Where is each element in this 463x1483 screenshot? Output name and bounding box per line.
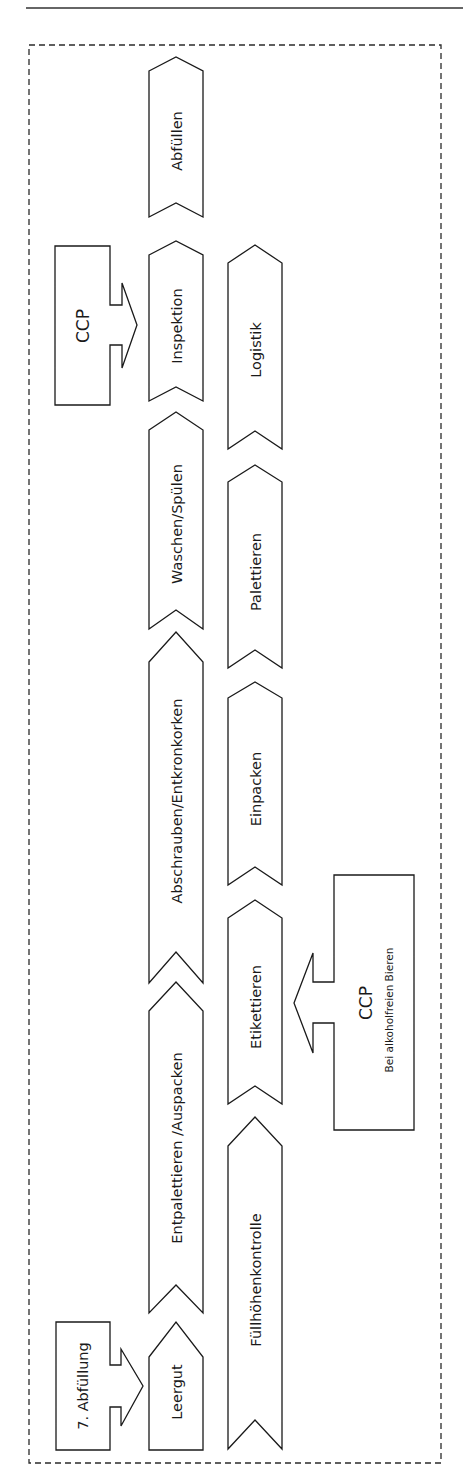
step-logistik: Logistik — [228, 245, 282, 449]
section-title-callout: 7. Abfüllung — [56, 1322, 143, 1450]
step-label: Waschen/Spülen — [169, 464, 185, 584]
step-einpacken: Einpacken — [228, 682, 282, 885]
ccp-callout-inspektion: CCP — [55, 246, 137, 405]
step-palettieren: Palettieren — [228, 465, 282, 668]
step-etikettieren: Etikettieren — [228, 900, 282, 1104]
step-label: Einpacken — [248, 752, 264, 826]
step-inspektion: Inspektion — [149, 241, 203, 401]
step-label: Füllhöhenkontrolle — [248, 1213, 264, 1346]
section-title: 7. Abfüllung — [75, 1342, 91, 1430]
step-label: Leergut — [169, 1364, 185, 1420]
step-abfuellen: Abfüllen — [149, 57, 203, 217]
ccp-title: CCP — [356, 986, 376, 1020]
section-title-arrow-shape — [56, 1322, 143, 1450]
step-abschrauben-entkronkorken: Abschrauben/Entkronkorken — [149, 632, 203, 983]
process-flow-diagram: 7. Abfüllung Leergut Entpalettieren /Aus… — [0, 0, 463, 1483]
step-label: Abfüllen — [169, 111, 185, 171]
step-label: Etikettieren — [248, 965, 264, 1049]
step-label: Entpalettieren /Auspacken — [169, 1052, 185, 1243]
step-waschen-spuelen: Waschen/Spülen — [149, 412, 203, 629]
ccp-note: Bei alkoholfreien Bieren — [383, 948, 395, 1073]
step-label: Logistik — [248, 322, 264, 378]
ccp-callout-etikettieren: CCP Bei alkoholfreien Bieren — [294, 875, 414, 1130]
step-label: Palettieren — [248, 533, 264, 611]
step-entpalettieren-auspacken: Entpalettieren /Auspacken — [149, 982, 203, 1313]
ccp-arrow-shape — [294, 875, 414, 1130]
step-fuellhoehenkontrolle: Füllhöhenkontrolle — [228, 1117, 282, 1449]
step-leergut: Leergut — [149, 1322, 203, 1450]
ccp-title: CCP — [73, 309, 93, 343]
ccp-arrow-shape — [55, 246, 137, 405]
step-label: Abschrauben/Entkronkorken — [169, 699, 185, 904]
step-label: Inspektion — [169, 288, 185, 363]
